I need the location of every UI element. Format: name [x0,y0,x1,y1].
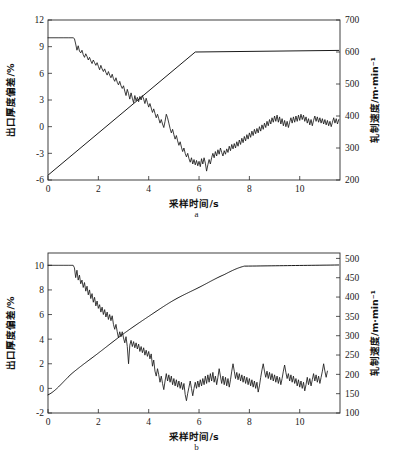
y2-tick-label: 200 [345,370,360,380]
y-tick-label: 12 [35,15,45,25]
y2-tick-label: 200 [345,175,360,185]
y-tick-label: -6 [36,175,44,185]
x-tick-label: 10 [295,417,305,427]
y2-tick-label: 500 [345,254,360,264]
chart-svg-a: 0246810-6-3036912200300400500600700采样时间/… [0,0,393,233]
y2-tick-label: 600 [345,47,360,57]
x-tick-label: 6 [197,184,202,194]
y-tick-label: 0 [39,122,44,132]
x-tick-label: 0 [46,184,51,194]
subcaption-a: a [0,209,393,219]
x-tick-label: 8 [247,184,252,194]
x-tick-label: 6 [197,417,202,427]
y-tick-label: 9 [39,42,44,52]
y-tick-label: 2 [39,359,44,369]
y-tick-label: -3 [36,149,44,159]
chart-figure-b: 0246810-20246810100150200250300350400450… [0,233,393,466]
chart-figure-a: 0246810-6-3036912200300400500600700采样时间/… [0,0,393,233]
y2-tick-label: 350 [345,312,360,322]
x-axis-title: 采样时间/s [168,198,218,209]
subcaption-b: b [0,442,393,452]
y2-tick-label: 250 [345,350,360,360]
plot-frame [48,20,340,180]
y-axis-title: 出口厚度偏差/% [5,63,16,136]
x-tick-label: 2 [96,184,101,194]
x-axis-title: 采样时间/s [168,431,218,442]
series-line-speed [48,50,339,175]
x-tick-label: 2 [96,417,101,427]
y2-tick-label: 300 [345,331,360,341]
y-tick-label: -2 [36,408,44,418]
series-line-speed [48,265,339,395]
y2-tick-label: 150 [345,389,360,399]
y2-axis-title: 轧制速度/m·min⁻¹ [369,290,380,376]
y2-tick-label: 300 [345,143,360,153]
y2-tick-label: 450 [345,273,360,283]
x-tick-label: 10 [295,184,305,194]
y2-tick-label: 700 [345,15,360,25]
y2-axis-title: 轧制速度/m·min⁻¹ [369,57,380,143]
x-tick-label: 0 [46,417,51,427]
x-tick-label: 8 [247,417,252,427]
series-line-thickness [48,38,339,171]
y-tick-label: 6 [39,310,44,320]
y-axis-title: 出口厚度偏差/% [5,296,16,369]
y-tick-label: 10 [35,261,45,271]
chart-svg-b: 0246810-20246810100150200250300350400450… [0,233,393,466]
y-tick-label: 4 [39,335,44,345]
y-tick-label: 6 [39,69,44,79]
y-tick-label: 3 [39,95,44,105]
y2-tick-label: 400 [345,292,360,302]
y2-tick-label: 400 [345,111,360,121]
y-tick-label: 8 [39,285,44,295]
y2-tick-label: 500 [345,79,360,89]
x-tick-label: 4 [146,417,151,427]
series-line-thickness [48,265,327,400]
y2-tick-label: 100 [345,408,360,418]
x-tick-label: 4 [146,184,151,194]
y-tick-label: 0 [39,384,44,394]
